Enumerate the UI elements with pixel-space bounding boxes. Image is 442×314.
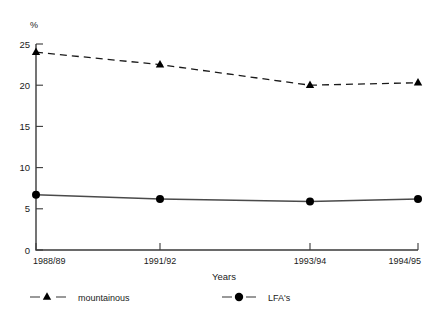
- y-tick-label-20: 20: [19, 80, 30, 91]
- data-point-mountainous-1994-95: [414, 78, 422, 86]
- y-tick-label-10: 10: [19, 162, 30, 173]
- chart-container: % 25 20 15 10 5 0 1988/89 1991/92 1993/: [0, 0, 442, 314]
- y-tick-label-5: 5: [25, 203, 30, 214]
- data-point-mountainous-1993-94: [306, 81, 314, 89]
- y-tick-label-25: 25: [19, 39, 30, 50]
- legend-label-mountainous: mountainous: [78, 293, 130, 303]
- data-point-lfas-1988-89: [32, 191, 40, 199]
- y-axis-unit-label: %: [30, 20, 38, 30]
- legend-item-lfas: LFA's: [222, 293, 291, 303]
- x-tick-label-1991-92: 1991/92: [144, 256, 177, 266]
- triangle-icon: [43, 292, 51, 300]
- data-point-mountainous-1991-92: [156, 60, 164, 68]
- x-tick-label-1994-95: 1994/95: [388, 256, 421, 266]
- x-tick-label-1988-89: 1988/89: [33, 256, 66, 266]
- data-point-lfas-1993-94: [306, 197, 314, 205]
- y-tick-label-15: 15: [19, 121, 30, 132]
- data-point-mountainous-1988-89: [32, 48, 40, 56]
- series-mountainous: [32, 48, 422, 89]
- y-tick-label-0: 0: [25, 245, 30, 256]
- series-line-mountainous: [36, 52, 418, 85]
- line-chart: % 25 20 15 10 5 0 1988/89 1991/92 1993/: [0, 0, 442, 314]
- x-tick-label-1993-94: 1993/94: [294, 256, 327, 266]
- series-lfas: [32, 191, 422, 206]
- legend-item-mountainous: mountainous: [30, 292, 130, 302]
- data-point-lfas-1991-92: [156, 195, 164, 203]
- legend-label-lfas: LFA's: [268, 293, 291, 303]
- x-axis-ticks: [36, 243, 418, 250]
- x-axis-title: Years: [212, 271, 236, 282]
- axis-lines: [36, 44, 418, 250]
- y-axis-ticks: [36, 44, 43, 250]
- series-line-lfas: [36, 195, 418, 202]
- chart-legend: mountainous LFA's: [30, 292, 291, 302]
- data-point-lfas-1994-95: [414, 195, 422, 203]
- circle-icon: [235, 293, 243, 301]
